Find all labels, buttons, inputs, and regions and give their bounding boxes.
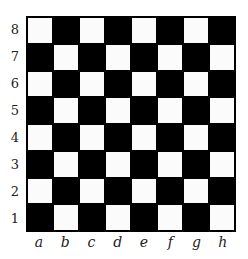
square-b1[interactable] [53, 204, 79, 231]
square-g1[interactable] [183, 204, 209, 231]
square-g2[interactable] [183, 178, 209, 205]
square-b7[interactable] [53, 44, 79, 71]
file-label: c [79, 232, 105, 252]
file-label: e [131, 232, 157, 252]
square-h5[interactable] [209, 97, 235, 124]
square-e4[interactable] [131, 124, 157, 151]
square-d5[interactable] [105, 97, 131, 124]
square-a1[interactable] [27, 204, 53, 231]
square-c3[interactable] [79, 151, 105, 178]
square-f8[interactable] [157, 17, 183, 44]
square-c5[interactable] [79, 97, 105, 124]
square-d4[interactable] [105, 124, 131, 151]
rank-label: 8 [8, 16, 22, 43]
square-h4[interactable] [209, 124, 235, 151]
square-d7[interactable] [105, 44, 131, 71]
rank-label: 5 [8, 97, 22, 124]
square-f5[interactable] [157, 97, 183, 124]
file-label: g [184, 232, 210, 252]
square-c6[interactable] [79, 71, 105, 98]
square-e8[interactable] [131, 17, 157, 44]
file-label: h [210, 232, 236, 252]
square-e3[interactable] [131, 151, 157, 178]
square-d2[interactable] [105, 178, 131, 205]
square-a8[interactable] [27, 17, 53, 44]
square-c4[interactable] [79, 124, 105, 151]
square-d1[interactable] [105, 204, 131, 231]
rank-label: 1 [8, 205, 22, 232]
square-c2[interactable] [79, 178, 105, 205]
square-b5[interactable] [53, 97, 79, 124]
square-h7[interactable] [209, 44, 235, 71]
square-f2[interactable] [157, 178, 183, 205]
square-f1[interactable] [157, 204, 183, 231]
file-label: d [105, 232, 131, 252]
square-e6[interactable] [131, 71, 157, 98]
square-b4[interactable] [53, 124, 79, 151]
square-f7[interactable] [157, 44, 183, 71]
rank-label: 2 [8, 178, 22, 205]
square-d6[interactable] [105, 71, 131, 98]
square-f4[interactable] [157, 124, 183, 151]
square-a3[interactable] [27, 151, 53, 178]
square-c8[interactable] [79, 17, 105, 44]
square-e7[interactable] [131, 44, 157, 71]
square-h1[interactable] [209, 204, 235, 231]
rank-label: 7 [8, 43, 22, 70]
rank-label: 3 [8, 151, 22, 178]
square-g5[interactable] [183, 97, 209, 124]
square-e5[interactable] [131, 97, 157, 124]
square-h6[interactable] [209, 71, 235, 98]
square-d8[interactable] [105, 17, 131, 44]
square-g7[interactable] [183, 44, 209, 71]
rank-label: 6 [8, 70, 22, 97]
square-h8[interactable] [209, 17, 235, 44]
square-d3[interactable] [105, 151, 131, 178]
square-f3[interactable] [157, 151, 183, 178]
square-b8[interactable] [53, 17, 79, 44]
square-a6[interactable] [27, 71, 53, 98]
square-f6[interactable] [157, 71, 183, 98]
square-b6[interactable] [53, 71, 79, 98]
square-c1[interactable] [79, 204, 105, 231]
square-e1[interactable] [131, 204, 157, 231]
square-a2[interactable] [27, 178, 53, 205]
square-e2[interactable] [131, 178, 157, 205]
square-g8[interactable] [183, 17, 209, 44]
file-label: a [26, 232, 52, 252]
square-h2[interactable] [209, 178, 235, 205]
square-g3[interactable] [183, 151, 209, 178]
square-b2[interactable] [53, 178, 79, 205]
file-label: b [52, 232, 78, 252]
chessboard [26, 16, 236, 232]
square-g4[interactable] [183, 124, 209, 151]
rank-label: 4 [8, 124, 22, 151]
square-g6[interactable] [183, 71, 209, 98]
square-a5[interactable] [27, 97, 53, 124]
square-a7[interactable] [27, 44, 53, 71]
square-b3[interactable] [53, 151, 79, 178]
file-label: f [157, 232, 183, 252]
square-a4[interactable] [27, 124, 53, 151]
square-h3[interactable] [209, 151, 235, 178]
square-c7[interactable] [79, 44, 105, 71]
